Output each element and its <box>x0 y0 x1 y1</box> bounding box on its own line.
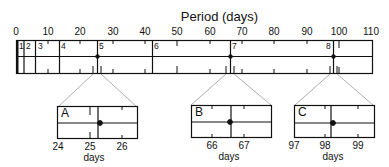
segment-label: 4 <box>61 41 66 51</box>
inset-c-tick: 99 <box>352 140 363 151</box>
inset-a-tick: 24 <box>52 141 63 152</box>
inset-a <box>57 106 138 139</box>
segment-label: 5 <box>99 41 104 51</box>
segment-label: 6 <box>154 41 159 51</box>
inset-a-tick: 26 <box>116 141 127 152</box>
inset-b-unit: days <box>218 151 239 162</box>
segment-label: 8 <box>326 41 331 51</box>
inset-c-label: C <box>298 105 307 119</box>
main-bar <box>16 40 373 74</box>
inset-b-tick: 66 <box>206 140 217 151</box>
inset-c-tick: 97 <box>288 140 299 151</box>
inset-a-label: A <box>61 106 69 120</box>
inset-c-unit: days <box>322 151 343 162</box>
zoom-connectors <box>58 74 373 107</box>
inset-b-tick: 67 <box>238 140 249 151</box>
inset-c-tick: 98 <box>319 140 330 151</box>
segment-label: 1 <box>19 41 24 51</box>
segment-label: 7 <box>232 41 237 51</box>
segment-label: 3 <box>38 41 43 51</box>
inset-b-label: B <box>195 105 203 119</box>
inset-a-tick: 25 <box>84 141 95 152</box>
inset-a-unit: days <box>83 152 104 163</box>
segment-label: 2 <box>26 41 31 51</box>
inset-b <box>191 105 272 138</box>
